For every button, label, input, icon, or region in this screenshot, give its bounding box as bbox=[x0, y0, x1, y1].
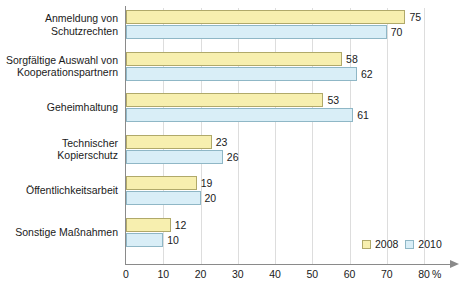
category-label-line: Kooperationspartnern bbox=[0, 66, 122, 78]
category-label-line: Öffentlichkeitsarbeit bbox=[0, 184, 122, 196]
category-label-line: Kopierschutz bbox=[0, 149, 122, 161]
bar-2010-1 bbox=[126, 67, 357, 81]
category-label-3: TechnischerKopierschutz bbox=[0, 137, 122, 162]
bar-2008-3 bbox=[126, 135, 212, 149]
x-axis-arrow-icon bbox=[450, 260, 459, 268]
bar-2010-3 bbox=[126, 150, 223, 164]
bar-2010-4 bbox=[126, 191, 201, 205]
category-label-5: Sonstige Maßnahmen bbox=[0, 226, 122, 238]
category-label-line: Schutzrechten bbox=[0, 25, 122, 37]
legend-label-2008: 2008 bbox=[375, 238, 398, 250]
category-label-line: Geheimhaltung bbox=[0, 101, 122, 113]
bar-value-2010-5: 10 bbox=[167, 233, 179, 247]
bar-2010-5 bbox=[126, 233, 163, 247]
category-label-4: Öffentlichkeitsarbeit bbox=[0, 184, 122, 196]
legend-item-2010[interactable]: 2010 bbox=[405, 238, 441, 250]
bar-value-2008-5: 12 bbox=[175, 218, 187, 232]
category-label-line: Anmeldung von bbox=[0, 12, 122, 24]
bar-value-2010-1: 62 bbox=[361, 67, 373, 81]
category-label-line: Sonstige Maßnahmen bbox=[0, 226, 122, 238]
x-axis-line bbox=[125, 264, 452, 265]
x-tick-label-70: 70 bbox=[372, 268, 402, 280]
bar-value-2008-2: 53 bbox=[327, 93, 339, 107]
x-tick-label-60: 60 bbox=[335, 268, 365, 280]
chart-figure: Anmeldung vonSchutzrechtenSorgfältige Au… bbox=[0, 0, 469, 295]
bar-2008-4 bbox=[126, 176, 197, 190]
bar-2008-5 bbox=[126, 218, 171, 232]
bar-value-2008-4: 19 bbox=[201, 176, 213, 190]
category-label-line: Technischer bbox=[0, 137, 122, 149]
legend-label-2010: 2010 bbox=[418, 238, 441, 250]
bar-value-2008-3: 23 bbox=[216, 135, 228, 149]
x-tick-label-40: 40 bbox=[260, 268, 290, 280]
category-label-line: Sorgfältige Auswahl von bbox=[0, 54, 122, 66]
x-tick-label-20: 20 bbox=[186, 268, 216, 280]
category-label-2: Geheimhaltung bbox=[0, 101, 122, 113]
bar-value-2010-3: 26 bbox=[227, 150, 239, 164]
bar-2010-2 bbox=[126, 108, 353, 122]
bar-value-2010-2: 61 bbox=[357, 108, 369, 122]
bars-area: 757058625361232619201210 bbox=[126, 8, 424, 264]
category-label-1: Sorgfältige Auswahl vonKooperationspartn… bbox=[0, 54, 122, 79]
legend-item-2008[interactable]: 2008 bbox=[362, 238, 398, 250]
bar-value-2010-0: 70 bbox=[391, 25, 403, 39]
legend-swatch-2010-icon bbox=[405, 240, 414, 249]
legend: 2008 2010 bbox=[362, 238, 442, 250]
x-tick-label-30: 30 bbox=[223, 268, 253, 280]
x-tick-label-0: 0 bbox=[111, 268, 141, 280]
x-tick-label-50: 50 bbox=[297, 268, 327, 280]
bar-2008-0 bbox=[126, 10, 405, 24]
bar-value-2010-4: 20 bbox=[205, 191, 217, 205]
category-label-0: Anmeldung vonSchutzrechten bbox=[0, 12, 122, 37]
x-tick-label-10: 10 bbox=[148, 268, 178, 280]
bar-value-2008-1: 58 bbox=[346, 52, 358, 66]
legend-swatch-2008-icon bbox=[362, 240, 371, 249]
bar-2008-2 bbox=[126, 93, 323, 107]
gridline-80 bbox=[424, 8, 425, 264]
bar-2008-1 bbox=[126, 52, 342, 66]
x-axis-unit-label: % bbox=[432, 268, 441, 280]
bar-2010-0 bbox=[126, 25, 387, 39]
bar-value-2008-0: 75 bbox=[409, 10, 421, 24]
